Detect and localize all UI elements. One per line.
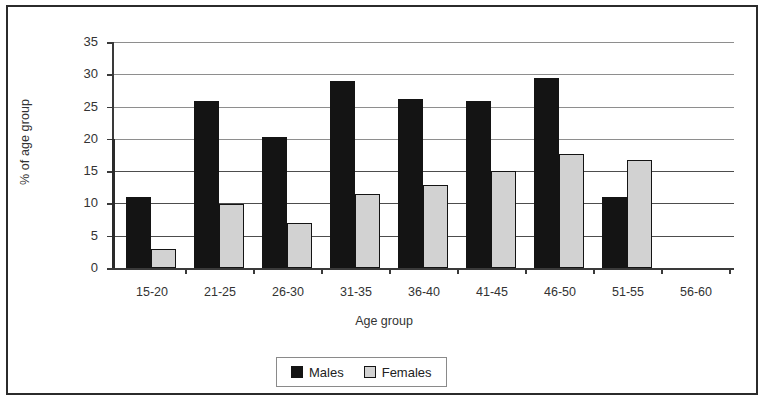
x-tick-mark (457, 269, 459, 274)
bar-group (462, 42, 530, 268)
x-tick-label: 21-25 (182, 285, 258, 299)
bar-males-15-20 (126, 197, 151, 268)
plot-area: 05101520253035 (112, 42, 734, 269)
y-tick-label: 10 (68, 195, 98, 210)
bar-males-26-30 (262, 137, 287, 268)
y-tick-label: 0 (68, 260, 98, 275)
bar-females-15-20 (151, 249, 176, 268)
bar-group (326, 42, 394, 268)
bar-group (122, 42, 190, 268)
bar-females-31-35 (355, 194, 380, 268)
y-tick-label: 5 (68, 228, 98, 243)
x-axis-title: Age group (8, 314, 760, 328)
y-axis-title: % of age group (18, 62, 32, 222)
y-tick-label: 15 (68, 163, 98, 178)
bar-group (190, 42, 258, 268)
x-tick-label: 15-20 (114, 285, 190, 299)
bar-males-41-45 (466, 101, 491, 268)
x-tick-mark (593, 269, 595, 274)
legend-swatch-females (364, 366, 376, 378)
bar-females-26-30 (287, 223, 312, 268)
x-tick-label: 31-35 (318, 285, 394, 299)
x-tick-label: 26-30 (250, 285, 326, 299)
bar-group (394, 42, 462, 268)
x-tick-mark (389, 269, 391, 274)
bar-males-46-50 (534, 78, 559, 268)
x-tick-mark (661, 269, 663, 274)
bar-group (258, 42, 326, 268)
bar-females-36-40 (423, 185, 448, 268)
x-tick-mark (185, 269, 187, 274)
bar-males-21-25 (194, 101, 219, 268)
y-tick-label: 20 (68, 131, 98, 146)
bar-females-21-25 (219, 204, 244, 268)
chart-figure: % of age group 05101520253035 15-2021-25… (6, 5, 758, 395)
chart-legend: MalesFemales (276, 357, 447, 387)
x-tick-mark (525, 269, 527, 274)
bar-group (530, 42, 598, 268)
bar-males-36-40 (398, 99, 423, 268)
bar-females-41-45 (491, 171, 516, 268)
y-tick-label: 30 (68, 66, 98, 81)
x-axis-line (112, 268, 734, 270)
bar-females-51-55 (627, 160, 652, 268)
x-tick-label: 41-45 (454, 285, 530, 299)
legend-label: Males (309, 365, 344, 380)
x-tick-mark (321, 269, 323, 274)
legend-swatch-males (291, 366, 303, 378)
x-tick-label: 51-55 (590, 285, 666, 299)
bar-males-51-55 (602, 197, 627, 268)
x-tick-label: 46-50 (522, 285, 598, 299)
bar-females-46-50 (559, 154, 584, 268)
y-tick-label: 35 (68, 34, 98, 49)
bar-group (598, 42, 666, 268)
bar-group (666, 42, 734, 268)
x-tick-mark (729, 269, 731, 274)
x-tick-label: 36-40 (386, 285, 462, 299)
y-axis-line-lower (112, 139, 115, 269)
legend-entry-females[interactable]: Females (364, 365, 432, 380)
x-tick-mark (253, 269, 255, 274)
legend-entry-males[interactable]: Males (291, 365, 344, 380)
legend-label: Females (382, 365, 432, 380)
y-tick-label: 25 (68, 99, 98, 114)
bar-males-31-35 (330, 81, 355, 268)
x-tick-label: 56-60 (658, 285, 734, 299)
